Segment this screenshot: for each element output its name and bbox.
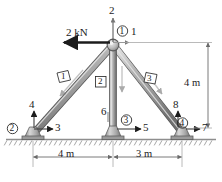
dof-label-1: 1 bbox=[131, 26, 137, 37]
node-label-1: 1 bbox=[120, 27, 125, 37]
member-label-1: 1 bbox=[61, 72, 66, 81]
node-label-2: 2 bbox=[10, 124, 15, 134]
member-2-bar bbox=[109, 46, 117, 132]
support-center bbox=[102, 126, 124, 140]
member-label-2: 2 bbox=[98, 77, 103, 86]
truss-figure: 2 kN 1 2 3 4 1 2 3 2 1 4 3 6 5 8 7 4 m 4… bbox=[0, 0, 222, 182]
dof-label-6: 6 bbox=[101, 106, 107, 117]
node-label-4: 4 bbox=[180, 119, 185, 129]
member-1-bar bbox=[34, 46, 111, 132]
dimension-label-left-span: 4 m bbox=[58, 149, 74, 160]
dimension-label-right-span: 3 m bbox=[136, 149, 152, 160]
dof-label-8: 8 bbox=[173, 99, 179, 110]
ground-line bbox=[4, 140, 216, 146]
member-label-3: 3 bbox=[147, 74, 152, 83]
dimension-label-height: 4 m bbox=[184, 78, 200, 89]
load-label-2kn: 2 kN bbox=[66, 27, 88, 38]
dof-label-4: 4 bbox=[29, 99, 35, 110]
dof-label-3: 3 bbox=[55, 122, 61, 133]
dof-label-5: 5 bbox=[143, 122, 149, 133]
truss-drawing bbox=[0, 0, 222, 182]
node-label-3: 3 bbox=[124, 116, 129, 126]
dof-label-7: 7 bbox=[202, 122, 208, 133]
dof-label-2: 2 bbox=[109, 5, 115, 16]
